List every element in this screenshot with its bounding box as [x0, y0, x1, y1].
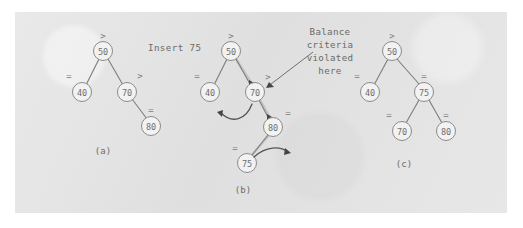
balance-factor-c50: >: [389, 31, 395, 41]
node-value: 70: [250, 88, 260, 98]
balance-factor-c80: =: [443, 110, 449, 120]
balance-factor-b80: =: [285, 108, 291, 118]
operation-label: Insert 75: [148, 42, 201, 53]
balance-factor-c75: =: [421, 71, 427, 81]
edge-c50-c75: [397, 59, 419, 84]
node-value: 40: [205, 88, 215, 98]
rot-left-arrow-path: [221, 104, 252, 119]
balance-factor-b75: =: [232, 143, 238, 153]
rot-right-arrow-path: [254, 148, 288, 157]
annotation-pointer-line: [271, 52, 313, 84]
edge-a50-a70: [108, 59, 123, 85]
annotation-line-4: here: [318, 65, 341, 76]
balance-factor-a50: >: [100, 31, 106, 41]
node-a-80[interactable]: 80 =: [142, 105, 161, 136]
edge-a70-a80: [132, 99, 147, 119]
balance-factor-a70: >: [137, 71, 143, 81]
node-value: 80: [268, 123, 278, 133]
balance-violation-annotation: Balance criteria violated here: [266, 26, 353, 89]
balance-factor-c40: =: [354, 71, 360, 81]
balance-factor-b70: >: [265, 72, 271, 82]
annotation-line-3: violated: [307, 52, 354, 63]
node-a-50[interactable]: 50 >: [94, 31, 113, 61]
tree-b: 50 > 40 = 70 > 80 = 75 =: [194, 31, 291, 195]
node-c-80[interactable]: 80 =: [437, 110, 456, 141]
node-value: 80: [146, 122, 156, 132]
balance-factor-a40: =: [66, 71, 72, 81]
edge-c50-c40: [374, 59, 388, 85]
node-value: 75: [242, 159, 252, 169]
node-value: 75: [419, 88, 429, 98]
caption-b: (b): [235, 185, 251, 195]
balance-factor-b50: >: [228, 31, 234, 41]
node-value: 50: [98, 47, 108, 57]
node-value: 50: [387, 47, 397, 57]
node-value: 40: [77, 88, 87, 98]
rot-left-arrow-head: [217, 110, 223, 117]
rot-right-arrow-head: [284, 148, 291, 155]
tree-a: 50 > 40 = 70 > 80 = (a): [66, 31, 160, 156]
edge-c75-c70: [406, 100, 419, 123]
tree-diagram-svg: 50 > 40 = 70 > 80 = (a) Insert 75: [0, 0, 523, 228]
node-a-70[interactable]: 70 >: [118, 71, 144, 102]
rot-left-arrow: [217, 104, 252, 119]
node-value: 70: [397, 127, 407, 137]
annotation-line-1: Balance: [310, 26, 351, 37]
node-b-75[interactable]: 75 =: [232, 143, 256, 173]
node-c-40[interactable]: 40 =: [354, 71, 379, 102]
caption-c: (c): [396, 159, 412, 169]
annotation-line-2: criteria: [307, 39, 354, 50]
rot-right-arrow: [254, 148, 291, 157]
node-value: 70: [122, 88, 132, 98]
node-value: 80: [441, 127, 451, 137]
node-c-70[interactable]: 70 =: [386, 110, 411, 141]
balance-factor-c70: =: [386, 110, 392, 120]
node-b-50[interactable]: 50 >: [222, 31, 241, 61]
balance-factor-a80: =: [148, 105, 154, 115]
edge-b50-b40: [214, 59, 227, 85]
node-value: 50: [226, 47, 236, 57]
caption-a: (a): [95, 146, 111, 156]
node-a-40[interactable]: 40 =: [66, 71, 91, 102]
balance-factor-b40: =: [194, 71, 200, 81]
node-b-40[interactable]: 40 =: [194, 71, 219, 102]
tree-a-edges: [86, 59, 147, 119]
tree-c: 50 > 40 = 75 = 70 = 80 =: [354, 31, 455, 169]
avl-insertion-figure: 50 > 40 = 70 > 80 = (a) Insert 75: [0, 0, 523, 228]
node-value: 40: [365, 88, 375, 98]
tree-b-edges: [214, 59, 269, 155]
edge-a50-a40: [86, 59, 99, 85]
edge-c75-c80: [429, 100, 442, 123]
node-c-75[interactable]: 75 =: [415, 71, 434, 102]
node-c-50[interactable]: 50 >: [383, 31, 402, 61]
edge-b50-b70: [236, 59, 250, 84]
